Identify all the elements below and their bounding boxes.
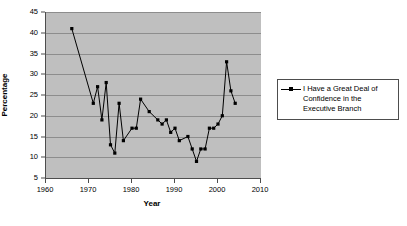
data-point-marker xyxy=(225,60,228,63)
data-point-marker xyxy=(216,122,219,125)
y-tick-label: 25 xyxy=(30,91,38,99)
data-point-marker xyxy=(122,139,125,142)
y-tick-label: 10 xyxy=(30,154,38,162)
data-point-marker xyxy=(161,122,164,125)
data-point-marker xyxy=(92,102,95,105)
data-point-marker xyxy=(135,127,138,130)
data-point-marker xyxy=(195,160,198,163)
legend-line-marker-icon xyxy=(281,85,301,94)
series-executive-branch-confidence xyxy=(46,12,261,178)
data-point-marker xyxy=(109,143,112,146)
data-point-marker xyxy=(156,118,159,121)
x-axis-title: Year xyxy=(144,199,161,208)
data-point-marker xyxy=(96,85,99,88)
x-tick-mark xyxy=(217,179,218,183)
data-point-marker xyxy=(105,81,108,84)
data-point-marker xyxy=(148,110,151,113)
x-tick-mark xyxy=(174,179,175,183)
data-point-marker xyxy=(208,127,211,130)
data-point-marker xyxy=(118,102,121,105)
data-point-marker xyxy=(204,147,207,150)
data-point-marker xyxy=(173,127,176,130)
plot-area xyxy=(45,12,261,179)
chart-legend: I Have a Great Deal of Confidence in the… xyxy=(277,79,399,120)
x-tick-mark xyxy=(88,179,89,183)
x-tick-label: 2000 xyxy=(209,186,226,194)
x-tick-label: 2010 xyxy=(252,186,269,194)
x-tick-mark xyxy=(131,179,132,183)
data-point-marker xyxy=(100,118,103,121)
data-point-marker xyxy=(199,147,202,150)
data-point-marker xyxy=(165,118,168,121)
data-point-marker xyxy=(139,98,142,101)
y-tick-label: 35 xyxy=(30,50,38,58)
data-point-marker xyxy=(113,152,116,155)
legend-item-label: I Have a Great Deal of Confidence in the… xyxy=(301,84,394,114)
data-point-marker xyxy=(212,127,215,130)
y-tick-label: 45 xyxy=(30,8,38,16)
x-tick-label: 1990 xyxy=(166,186,183,194)
data-point-marker xyxy=(221,114,224,117)
data-point-marker xyxy=(186,135,189,138)
data-point-marker xyxy=(229,89,232,92)
y-tick-label: 30 xyxy=(30,71,38,79)
x-tick-mark xyxy=(45,179,46,183)
x-tick-label: 1980 xyxy=(123,186,140,194)
legend-item: I Have a Great Deal of Confidence in the… xyxy=(281,84,394,114)
y-tick-label: 15 xyxy=(30,133,38,141)
series-line xyxy=(72,29,235,162)
x-tick-label: 1960 xyxy=(37,186,54,194)
y-axis-ticks: 51015202530354045 xyxy=(0,0,45,190)
y-tick-label: 40 xyxy=(30,29,38,37)
data-point-marker xyxy=(178,139,181,142)
chart-figure: Percentage 51015202530354045 19601970198… xyxy=(0,0,407,226)
data-point-marker xyxy=(70,27,73,30)
x-tick-mark xyxy=(260,179,261,183)
y-tick-label: 20 xyxy=(30,112,38,120)
x-tick-label: 1970 xyxy=(80,186,97,194)
data-point-marker xyxy=(191,147,194,150)
data-point-marker xyxy=(130,127,133,130)
data-point-marker xyxy=(169,131,172,134)
x-axis-ticks: 196019701980199020002010 xyxy=(0,179,407,199)
data-point-marker xyxy=(234,102,237,105)
